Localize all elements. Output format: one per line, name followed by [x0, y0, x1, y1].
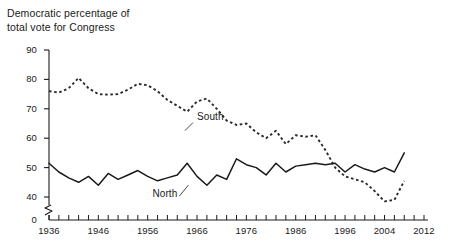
y-tick-label: 90: [15, 44, 37, 55]
x-tick-label: 2012: [407, 225, 441, 236]
series-label-south: South: [197, 111, 224, 122]
y-axis-break-marker: [45, 205, 52, 215]
x-tick-label: 1976: [229, 225, 263, 236]
x-tick-label: 1936: [32, 225, 66, 236]
y-tick-label: 60: [15, 132, 37, 143]
annotation-leader-lines: [179, 123, 193, 196]
x-tick-label: 1956: [131, 225, 165, 236]
x-tick-label: 1946: [81, 225, 115, 236]
x-tick-label: 2004: [368, 225, 402, 236]
y-tick-label: 50: [15, 162, 37, 173]
series-layer: [49, 78, 404, 201]
plot-area: [0, 0, 452, 249]
y-tick-label: 0: [15, 214, 37, 225]
series-line-south: [49, 78, 404, 201]
x-tick-label: 1996: [328, 225, 362, 236]
series-line-north: [49, 153, 404, 185]
north-leader-line: [179, 185, 188, 196]
y-tick-label: 70: [15, 103, 37, 114]
series-label-north: North: [152, 188, 177, 199]
x-tick-label: 1986: [279, 225, 313, 236]
y-tick-label: 80: [15, 73, 37, 84]
axis-layer: [44, 50, 428, 220]
x-tick-label: 1966: [180, 225, 214, 236]
south-leader-line: [185, 123, 193, 131]
chart-container: Democratic percentage of total vote for …: [0, 0, 452, 249]
y-tick-label: 40: [15, 191, 37, 202]
